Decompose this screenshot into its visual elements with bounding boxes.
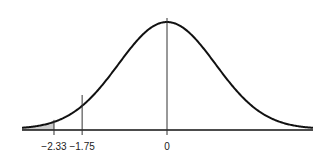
tick-label: −2.33	[41, 141, 67, 152]
normal-distribution-chart: −2.33−1.750	[0, 0, 336, 168]
tick-labels: −2.33−1.750	[41, 141, 170, 152]
vertical-markers	[54, 18, 167, 135]
tick-label: −1.75	[69, 141, 95, 152]
tick-label: 0	[164, 141, 170, 152]
